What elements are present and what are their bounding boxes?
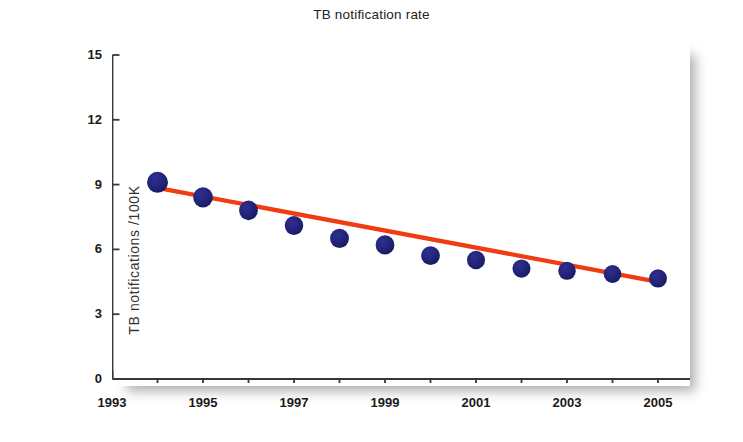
axis-lines xyxy=(113,55,691,379)
y-tick-label-15: 15 xyxy=(68,47,102,62)
x-tick-label-2003: 2003 xyxy=(537,395,597,410)
y-tick-label-3: 3 xyxy=(68,306,102,321)
y-axis-ticks xyxy=(113,55,120,379)
y-tick-label-9: 9 xyxy=(68,177,102,192)
x-tick-label-1997: 1997 xyxy=(264,395,324,410)
y-tick-label-12: 12 xyxy=(68,112,102,127)
page-title: TB notification rate xyxy=(0,7,743,22)
chart-figure: TB notification rate TB notifications /1… xyxy=(0,0,743,442)
x-axis-ticks xyxy=(113,371,659,383)
x-tick-label-1995: 1995 xyxy=(173,395,233,410)
y-tick-label-6: 6 xyxy=(68,241,102,256)
x-tick-label-1999: 1999 xyxy=(355,395,415,410)
x-tick-label-2005: 2005 xyxy=(628,395,688,410)
x-tick-label-1993: 1993 xyxy=(82,395,142,410)
y-tick-label-0: 0 xyxy=(68,371,102,386)
trend-line xyxy=(158,188,659,282)
chart-canvas xyxy=(112,40,690,383)
plot-area: TB notifications /100K xyxy=(112,40,690,383)
x-tick-label-2001: 2001 xyxy=(446,395,506,410)
